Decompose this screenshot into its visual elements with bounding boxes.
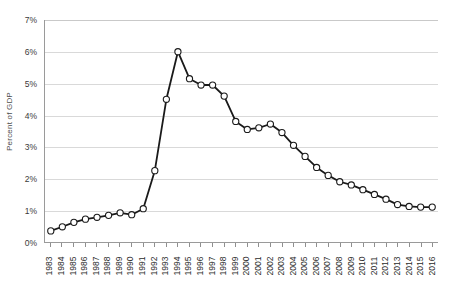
x-axis-tick-label-text: 2004 — [288, 257, 298, 276]
x-axis-tick — [409, 243, 410, 247]
x-axis-tick — [293, 243, 294, 247]
x-axis-tick-label: 1989 — [113, 248, 125, 288]
x-axis-tick-label-text: 1993 — [161, 257, 171, 276]
x-axis-tick-label-text: 2005 — [300, 257, 310, 276]
x-axis-tick-label-text: 1987 — [91, 257, 101, 276]
x-axis-tick-label: 2010 — [357, 248, 369, 288]
x-axis-tick-label: 1985 — [67, 248, 79, 288]
x-axis-tick-label-text: 1990 — [126, 257, 136, 276]
x-axis-tick-label: 2011 — [368, 248, 380, 288]
data-point-marker — [244, 126, 250, 132]
series-line — [51, 52, 432, 231]
data-point-marker — [198, 82, 204, 88]
x-axis-tick — [166, 243, 167, 247]
x-axis-tick — [189, 243, 190, 247]
x-axis-tick-label-text: 1992 — [149, 257, 159, 276]
x-axis-tick-label: 1994 — [171, 248, 183, 288]
data-point-marker — [186, 76, 192, 82]
x-axis-tick-label: 1984 — [55, 248, 67, 288]
x-axis-tick-label: 2009 — [345, 248, 357, 288]
data-point-marker — [418, 204, 424, 210]
y-axis-title: Percent of GDP — [2, 0, 16, 243]
y-axis-tick-label: 5% — [25, 79, 37, 89]
x-axis-tick-label: 2012 — [380, 248, 392, 288]
data-point-marker — [105, 212, 111, 218]
x-axis-tick-label-text: 2013 — [392, 257, 402, 276]
x-axis-tick-labels: 1983198419851986198719881989199019911992… — [44, 248, 438, 292]
x-axis-tick — [421, 243, 422, 247]
data-point-marker — [325, 172, 331, 178]
x-axis-tick-label-text: 2001 — [253, 257, 263, 276]
x-axis-tick — [247, 243, 248, 247]
x-axis-tick — [200, 243, 201, 247]
x-axis-tick — [108, 243, 109, 247]
data-point-marker — [302, 153, 308, 159]
data-series — [45, 20, 438, 242]
x-axis-tick-label-text: 2010 — [358, 257, 368, 276]
x-axis-tick — [85, 243, 86, 247]
x-axis-tick — [61, 243, 62, 247]
y-axis-tick-labels: 0%1%2%3%4%5%6%7% — [16, 0, 40, 292]
x-axis-tick-label: 1996 — [194, 248, 206, 288]
x-axis-tick — [397, 243, 398, 247]
x-axis-tick — [235, 243, 236, 247]
data-point-marker — [429, 204, 435, 210]
data-point-marker — [71, 219, 77, 225]
x-axis-tick-label: 1991 — [137, 248, 149, 288]
plot-area — [44, 20, 438, 243]
x-axis-tick-label-text: 2012 — [381, 257, 391, 276]
x-axis-tick-label: 2014 — [403, 248, 415, 288]
data-point-marker — [48, 228, 54, 234]
x-axis-tick-label-text: 1995 — [184, 257, 194, 276]
x-axis-tick-label: 1987 — [90, 248, 102, 288]
data-point-marker — [117, 210, 123, 216]
x-axis-tick — [386, 243, 387, 247]
x-axis-tick-label: 1993 — [160, 248, 172, 288]
data-point-marker — [383, 196, 389, 202]
x-axis-tick — [363, 243, 364, 247]
data-point-marker — [152, 168, 158, 174]
x-axis-tick-label: 1986 — [79, 248, 91, 288]
x-axis-tick — [212, 243, 213, 247]
data-point-marker — [140, 206, 146, 212]
y-axis-title-label: Percent of GDP — [5, 92, 14, 151]
x-axis-tick-label-text: 2015 — [416, 257, 426, 276]
y-axis-tick-label: 6% — [25, 47, 37, 57]
x-axis-tick-label: 1988 — [102, 248, 114, 288]
y-axis-tick-label: 4% — [25, 111, 37, 121]
x-axis-tick-label: 2016 — [426, 248, 438, 288]
data-point-marker — [59, 224, 65, 230]
x-axis-tick-label: 1983 — [44, 248, 56, 288]
x-axis-tick-label-text: 1999 — [230, 257, 240, 276]
x-axis-tick-label-text: 1998 — [219, 257, 229, 276]
x-axis-tick-label: 1992 — [148, 248, 160, 288]
x-axis-tick — [316, 243, 317, 247]
data-point-marker — [233, 118, 239, 124]
data-point-marker — [175, 49, 181, 55]
x-axis-tick — [96, 243, 97, 247]
gdp-percent-line-chart: Percent of GDP 0%1%2%3%4%5%6%7% 19831984… — [0, 0, 471, 292]
data-point-marker — [221, 93, 227, 99]
x-axis-tick-label: 2006 — [310, 248, 322, 288]
data-point-marker — [256, 125, 262, 131]
x-axis-tick-label-text: 1991 — [138, 257, 148, 276]
data-point-marker — [94, 214, 100, 220]
x-axis-tick-label: 2003 — [276, 248, 288, 288]
data-point-marker — [82, 216, 88, 222]
x-axis-tick-label: 2013 — [391, 248, 403, 288]
data-point-marker — [163, 96, 169, 102]
x-axis-tick — [73, 243, 74, 247]
x-axis-tick-label-text: 2016 — [427, 257, 437, 276]
x-axis-tick-label: 1997 — [206, 248, 218, 288]
x-axis-tick-label-text: 2003 — [277, 257, 287, 276]
data-point-marker — [314, 164, 320, 170]
x-axis-tick-label-text: 1983 — [45, 257, 55, 276]
x-axis-tick-label-text: 1984 — [56, 257, 66, 276]
data-point-marker — [129, 212, 135, 218]
x-axis-tick-label-text: 2011 — [369, 257, 379, 275]
x-axis-tick — [177, 243, 178, 247]
x-axis-tick — [131, 243, 132, 247]
x-axis-tick — [154, 243, 155, 247]
x-axis-tick-label-text: 2006 — [311, 257, 321, 276]
x-axis-tick-label: 1998 — [218, 248, 230, 288]
